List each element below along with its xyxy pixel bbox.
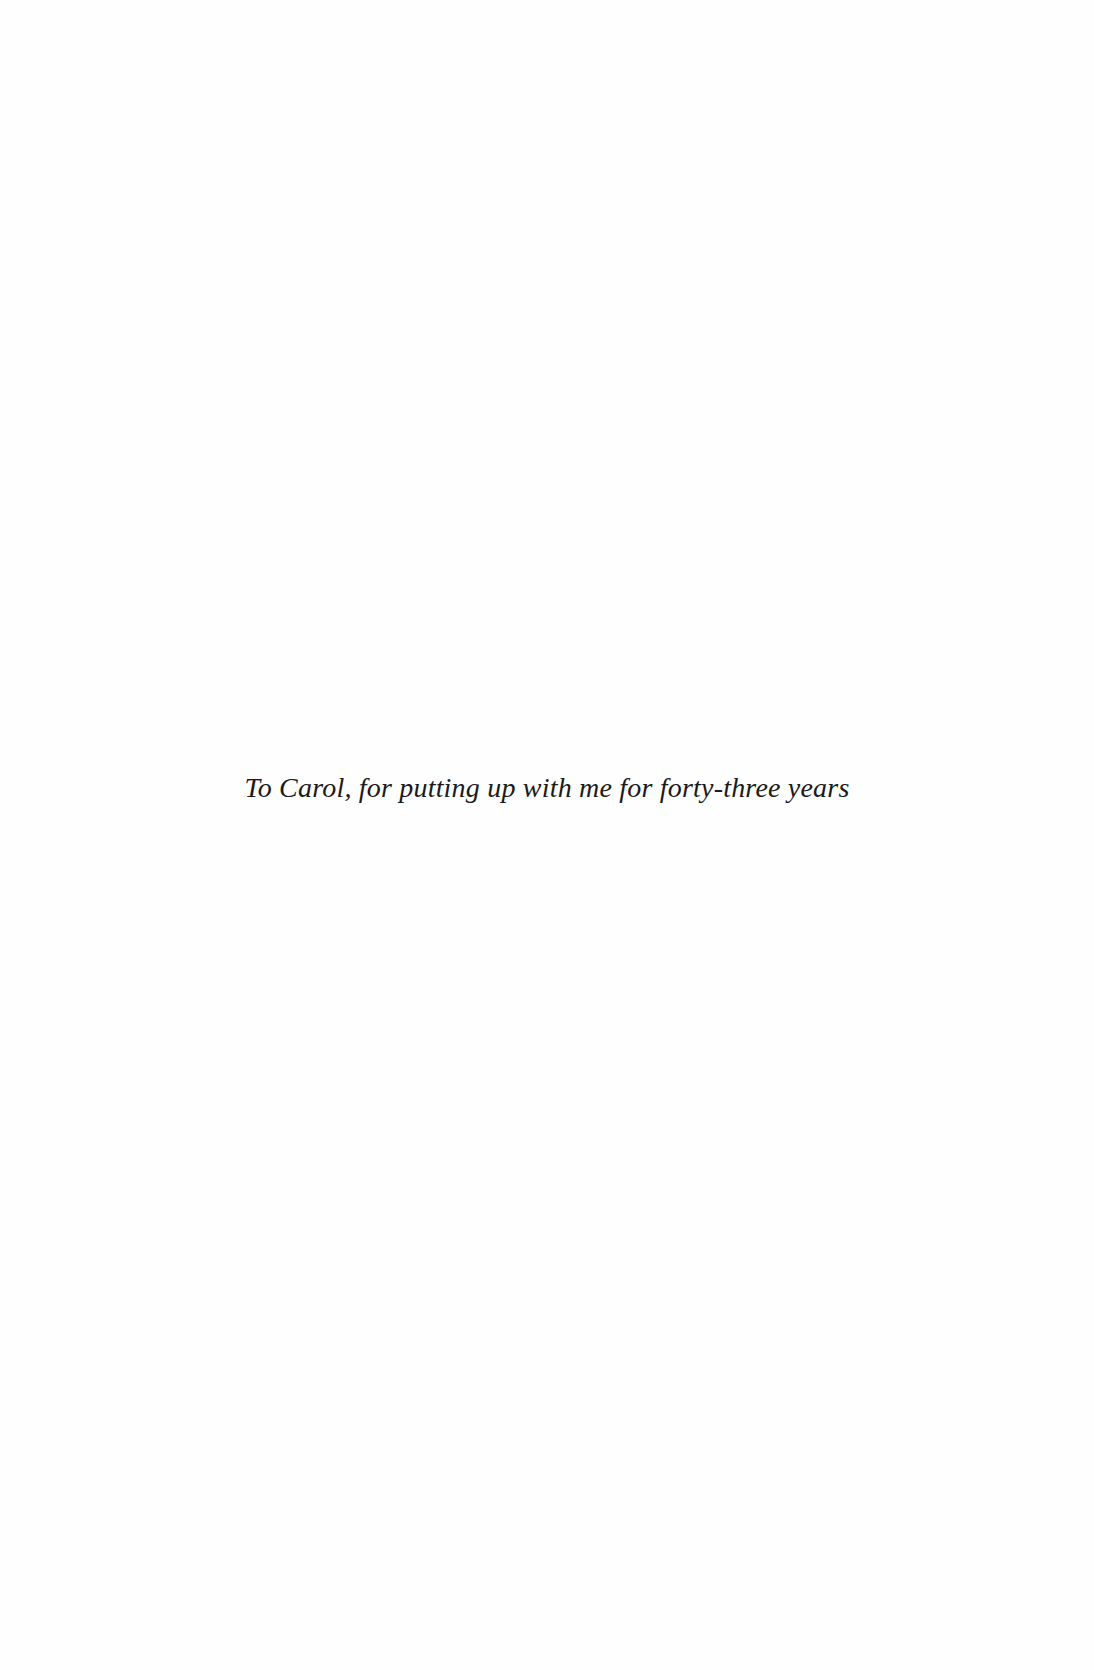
book-page: To Carol, for putting up with me for for…	[0, 0, 1094, 1670]
dedication-text: To Carol, for putting up with me for for…	[0, 772, 1094, 804]
